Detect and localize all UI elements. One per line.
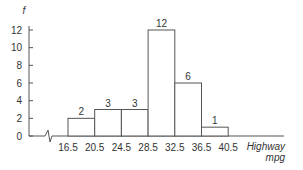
x-tick-label: 20.5 bbox=[85, 142, 105, 153]
y-tick-label: 6 bbox=[16, 78, 22, 89]
y-tick-label: 10 bbox=[11, 42, 23, 53]
bar-value-label: 3 bbox=[105, 98, 111, 109]
y-tick-label: 12 bbox=[11, 25, 23, 36]
x-axis-label-line2: mpg bbox=[266, 152, 286, 163]
histogram-chart: 024681012 16.520.524.528.532.536.540.5 2… bbox=[0, 0, 303, 170]
x-axis-label-line1: Highway bbox=[247, 141, 286, 152]
y-axis: 024681012 bbox=[11, 25, 33, 142]
bar-value-label: 6 bbox=[185, 71, 191, 82]
histogram-bars: 2331261 bbox=[68, 18, 228, 136]
x-tick-label: 16.5 bbox=[58, 142, 78, 153]
y-tick-label: 2 bbox=[16, 113, 22, 124]
bar-value-label: 12 bbox=[156, 18, 168, 29]
histogram-bar bbox=[202, 127, 229, 136]
y-axis-label: f bbox=[23, 5, 27, 16]
bar-value-label: 3 bbox=[132, 98, 138, 109]
y-tick-label: 4 bbox=[16, 95, 22, 106]
x-tick-label: 32.5 bbox=[165, 142, 185, 153]
histogram-bar bbox=[148, 30, 175, 136]
x-tick-label: 36.5 bbox=[192, 142, 212, 153]
histogram-bar bbox=[121, 110, 148, 137]
x-tick-label: 28.5 bbox=[138, 142, 158, 153]
histogram-bar bbox=[68, 118, 95, 136]
y-tick-label: 0 bbox=[16, 131, 22, 142]
y-tick-label: 8 bbox=[16, 60, 22, 71]
bar-value-label: 2 bbox=[79, 106, 85, 117]
x-tick-label: 24.5 bbox=[112, 142, 132, 153]
x-tick-label: 40.5 bbox=[218, 142, 238, 153]
bar-value-label: 1 bbox=[212, 115, 218, 126]
histogram-bar bbox=[95, 110, 122, 137]
histogram-bar bbox=[175, 83, 202, 136]
